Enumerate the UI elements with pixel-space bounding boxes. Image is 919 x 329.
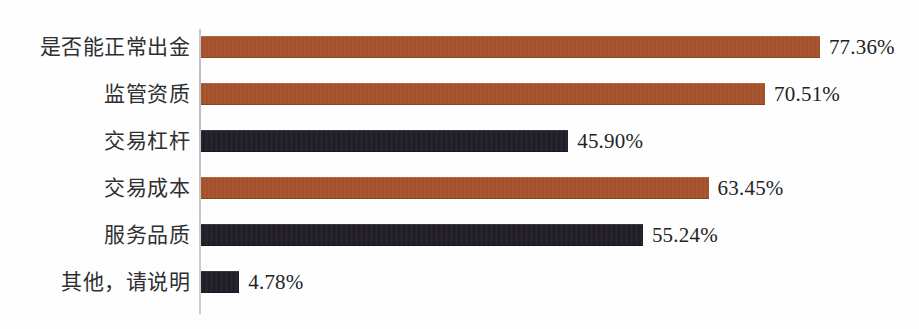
value-label: 4.78% <box>248 272 303 293</box>
value-label: 63.45% <box>718 178 784 199</box>
value-label: 70.51% <box>774 84 840 105</box>
bar-row: 其他，请说明 4.78% <box>0 267 919 297</box>
bar-segment <box>201 271 239 293</box>
bar-row: 服务品质 55.24% <box>0 220 919 250</box>
bar-segment <box>201 177 709 199</box>
category-label: 交易杠杆 <box>104 131 190 152</box>
bar-segment <box>201 224 643 246</box>
bar-segment <box>201 83 765 105</box>
bar-row: 交易杠杆 45.90% <box>0 126 919 156</box>
category-label: 其他，请说明 <box>61 272 190 293</box>
value-label: 77.36% <box>829 37 895 58</box>
category-label: 交易成本 <box>104 178 190 199</box>
bar-row: 交易成本 63.45% <box>0 173 919 203</box>
category-label: 是否能正常出金 <box>40 37 191 58</box>
bar-segment <box>201 130 568 152</box>
value-label: 55.24% <box>652 225 718 246</box>
value-label: 45.90% <box>577 131 643 152</box>
category-label: 服务品质 <box>104 225 190 246</box>
bar-segment <box>201 36 820 58</box>
bar-row: 是否能正常出金 77.36% <box>0 32 919 62</box>
bar-row: 监管资质 70.51% <box>0 79 919 109</box>
category-label: 监管资质 <box>104 84 190 105</box>
bar-chart: 是否能正常出金 77.36% 监管资质 70.51% 交易杠杆 45.90% 交… <box>0 0 919 329</box>
